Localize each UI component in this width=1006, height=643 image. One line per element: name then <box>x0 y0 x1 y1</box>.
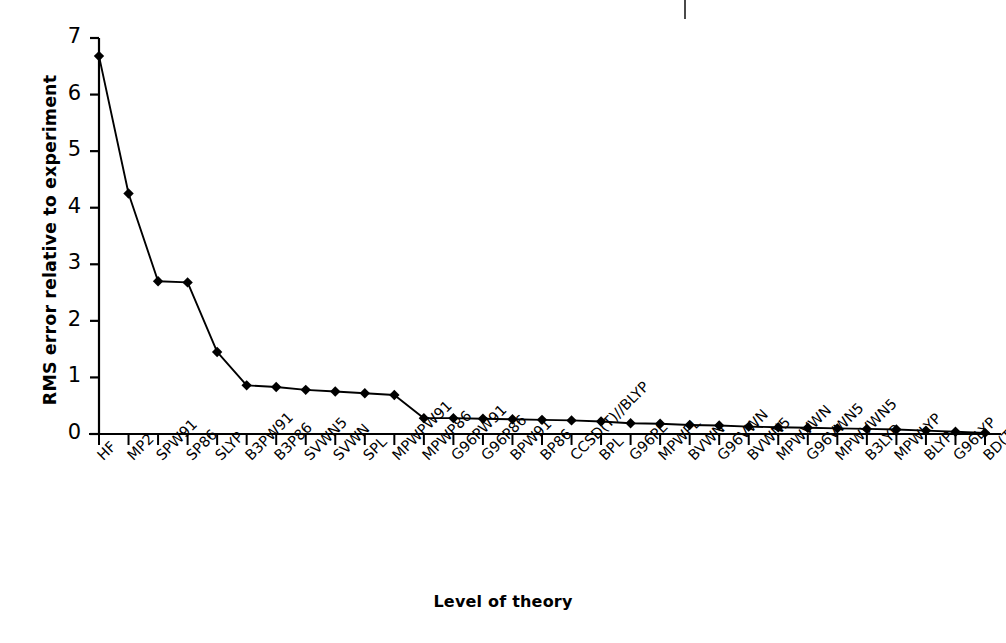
y-tick-label: 1 <box>47 363 81 387</box>
data-point-marker <box>182 277 192 287</box>
y-tick-label: 7 <box>47 24 81 48</box>
y-tick-label: 6 <box>47 81 81 105</box>
data-point-marker <box>625 418 635 428</box>
data-point-marker <box>360 388 370 398</box>
data-point-marker <box>566 415 576 425</box>
chart-figure: RMS error relative to experiment Level o… <box>0 0 1006 643</box>
data-point-marker <box>330 386 340 396</box>
data-series-line <box>99 56 985 433</box>
data-point-marker <box>271 382 281 392</box>
data-point-marker <box>153 276 163 286</box>
data-point-marker <box>301 385 311 395</box>
y-tick-label: 2 <box>47 307 81 331</box>
y-tick-label: 5 <box>47 137 81 161</box>
data-point-marker <box>123 188 133 198</box>
y-tick-label: 0 <box>47 420 81 444</box>
plot-area <box>0 0 1006 643</box>
y-tick-label: 3 <box>47 250 81 274</box>
data-point-marker <box>94 51 104 61</box>
y-tick-label: 4 <box>47 194 81 218</box>
